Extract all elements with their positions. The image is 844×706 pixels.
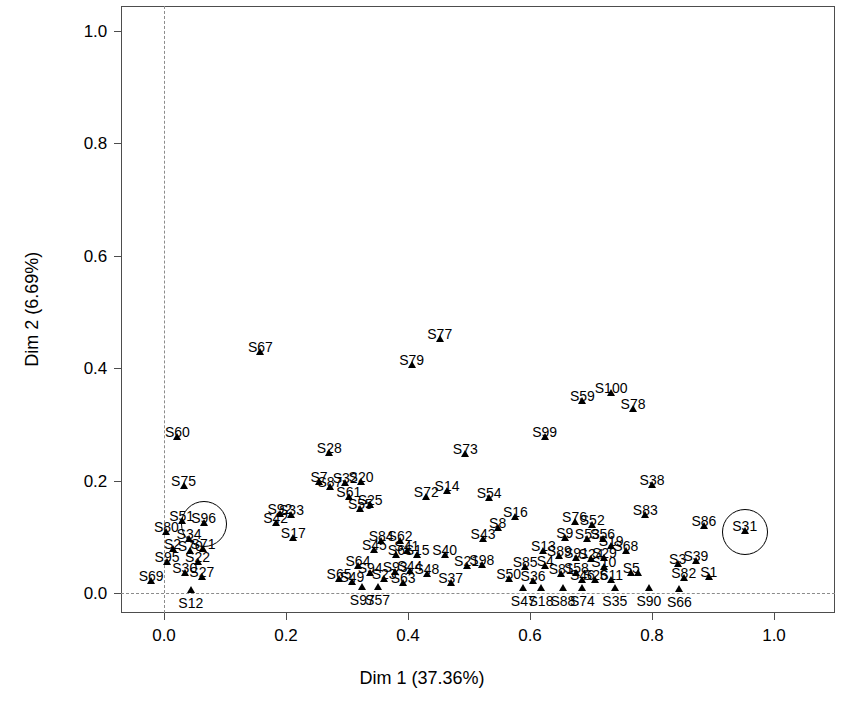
data-point-label: S17 <box>281 526 306 540</box>
x-axis-title: Dim 1 (37.36%) <box>0 668 844 689</box>
data-point-marker <box>519 584 527 591</box>
data-point-label: S79 <box>399 353 424 367</box>
data-point-marker <box>634 569 642 576</box>
data-point-label: S77 <box>427 327 452 341</box>
x-tick-label: 0.8 <box>627 627 677 644</box>
data-point-marker <box>187 586 195 593</box>
data-point-marker <box>645 584 653 591</box>
highlight-ring-s31 <box>722 509 768 555</box>
data-point-label: S74 <box>570 594 595 608</box>
y-axis-title: Dim 2 (6.69%) <box>22 252 43 367</box>
data-point-label: S100 <box>595 381 628 395</box>
data-point-marker <box>358 583 366 590</box>
y-tick-mark <box>114 256 121 257</box>
data-point-label: S80 <box>154 520 179 534</box>
data-point-label: S86 <box>691 514 716 528</box>
data-point-marker <box>611 584 619 591</box>
y-tick-label: 0.4 <box>65 360 107 377</box>
data-point-marker <box>578 584 586 591</box>
data-point-label: S69 <box>139 569 164 583</box>
y-tick-label: 0.8 <box>65 135 107 152</box>
data-point-label: S12 <box>178 596 203 610</box>
data-point-label: S78 <box>621 397 646 411</box>
data-point-label: S99 <box>532 425 557 439</box>
y-tick-label: 0.6 <box>65 248 107 265</box>
data-point-label: S63 <box>391 571 416 585</box>
data-point-label: S1 <box>700 565 717 579</box>
data-point-label: S38 <box>640 473 665 487</box>
y-tick-mark <box>114 593 121 594</box>
data-point-label: S82 <box>671 566 696 580</box>
data-point-label: S39 <box>683 549 708 563</box>
reference-line-horizontal <box>121 593 835 594</box>
data-point-label: S43 <box>471 527 496 541</box>
data-point-label: S20 <box>349 470 374 484</box>
data-point-label: S6 <box>388 543 405 557</box>
x-tick-label: 0.6 <box>505 627 555 644</box>
data-point-label: S16 <box>503 505 528 519</box>
data-point-label: S15 <box>405 543 430 557</box>
x-tick-mark <box>164 613 165 620</box>
data-point-label: S48 <box>414 562 439 576</box>
data-point-label: S98 <box>469 553 494 567</box>
x-tick-label: 0.4 <box>383 627 433 644</box>
x-tick-mark <box>286 613 287 620</box>
x-tick-label: 0.0 <box>139 627 189 644</box>
data-point-marker <box>374 583 382 590</box>
data-point-label: S9 <box>556 526 573 540</box>
data-point-marker <box>537 584 545 591</box>
x-tick-mark <box>774 613 775 620</box>
data-point-label: S50 <box>496 567 521 581</box>
data-point-label: S73 <box>453 442 478 456</box>
data-point-label: S83 <box>633 503 658 517</box>
data-point-label: S35 <box>602 594 627 608</box>
data-point-label: S49 <box>339 570 364 584</box>
data-point-label: S37 <box>438 571 463 585</box>
data-point-label: S75 <box>171 474 196 488</box>
data-point-label: S55 <box>348 497 373 511</box>
data-point-label: S60 <box>165 425 190 439</box>
data-point-marker <box>559 584 567 591</box>
x-tick-label: 0.2 <box>261 627 311 644</box>
y-tick-mark <box>114 481 121 482</box>
data-point-label: S28 <box>317 441 342 455</box>
data-point-label: S90 <box>636 594 661 608</box>
highlight-ring-s96 <box>181 501 227 547</box>
x-tick-mark <box>530 613 531 620</box>
data-point-label: S36 <box>521 569 546 583</box>
data-point-label: S42 <box>263 511 288 525</box>
data-point-label: S45 <box>362 538 387 552</box>
data-point-label: S14 <box>435 479 460 493</box>
data-point-label: S57 <box>365 593 390 607</box>
y-tick-mark <box>114 31 121 32</box>
data-point-marker <box>675 585 683 592</box>
y-tick-mark <box>114 143 121 144</box>
scatter-plot-figure: 0.00.20.40.60.81.0 0.00.20.40.60.81.0 S6… <box>0 0 844 706</box>
x-tick-mark <box>652 613 653 620</box>
y-tick-label: 1.0 <box>65 23 107 40</box>
x-tick-label: 1.0 <box>749 627 799 644</box>
data-point-label: S54 <box>477 486 502 500</box>
y-tick-mark <box>114 368 121 369</box>
data-point-label: S67 <box>248 340 273 354</box>
x-tick-mark <box>408 613 409 620</box>
data-point-label: S11 <box>599 568 623 582</box>
data-point-label: S66 <box>667 595 692 609</box>
y-tick-label: 0.0 <box>65 585 107 602</box>
data-point-label: S68 <box>613 539 638 553</box>
data-point-label: S27 <box>189 565 214 579</box>
y-tick-label: 0.2 <box>65 473 107 490</box>
data-point-label: S52 <box>580 513 605 527</box>
data-point-label: S59 <box>570 389 595 403</box>
